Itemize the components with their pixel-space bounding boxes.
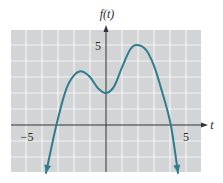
x-tick-label-5: 5: [183, 130, 189, 144]
y-axis-arrow-icon: [104, 25, 109, 32]
x-axis-label: t: [210, 118, 214, 132]
y-axis-label: f(t): [100, 7, 115, 21]
y-tick-label-5: 5: [95, 39, 101, 53]
x-tick-label-neg5: −5: [21, 130, 34, 144]
x-axis-arrow-icon: [201, 123, 208, 128]
function-graph: f(t) t −5 5 5: [0, 0, 223, 183]
